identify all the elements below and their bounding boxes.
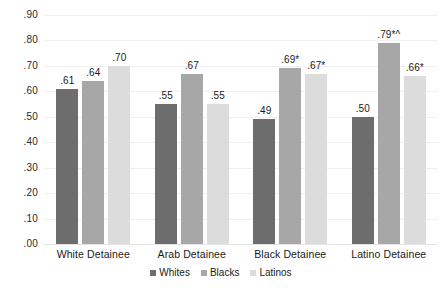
legend-swatch-icon [250, 270, 256, 276]
bar-value-label: .67* [307, 61, 325, 71]
y-axis-tick-label: .80 [4, 35, 38, 45]
y-axis-tick-label: .90 [4, 10, 38, 20]
bar[interactable] [378, 43, 400, 244]
bar-slot: .49 [253, 0, 275, 244]
bar-slot: .55 [155, 0, 177, 244]
bar[interactable] [108, 66, 130, 244]
y-axis-tick-label: .20 [4, 188, 38, 198]
bar-slot: .64 [82, 0, 104, 244]
bar-group-bars: .50.79*^.66* [340, 0, 439, 244]
y-axis-tick-label: .30 [4, 163, 38, 173]
bar-value-label: .79*^ [377, 30, 400, 40]
bar-slot: .69* [279, 0, 301, 244]
legend-swatch-icon [201, 270, 207, 276]
bar[interactable] [305, 74, 327, 244]
bar[interactable] [404, 76, 426, 244]
bar-slot: .67 [181, 0, 203, 244]
bar-value-label: .50 [356, 104, 370, 114]
bar-group-bars: .61.64.70 [44, 0, 143, 244]
legend-label: Whites [159, 268, 190, 278]
legend-label: Latinos [259, 268, 291, 278]
bar[interactable] [279, 68, 301, 244]
bar-slot: .79*^ [378, 0, 400, 244]
bar-value-label: .70 [112, 53, 126, 63]
bar-slot: .50 [352, 0, 374, 244]
legend-item[interactable]: Whites [150, 268, 190, 278]
bar-group-bars: .49.69*.67* [241, 0, 340, 244]
category-axis: White DetaineeArab DetaineeBlack Detaine… [44, 248, 438, 261]
bar-value-label: .55 [211, 91, 225, 101]
y-axis-tick-label: .60 [4, 86, 38, 96]
bar-value-label: .66* [406, 63, 424, 73]
bar-value-label: .64 [86, 68, 100, 78]
bar-value-label: .55 [159, 91, 173, 101]
axis-baseline [44, 244, 438, 245]
bar-group: .50.79*^.66* [340, 0, 439, 244]
y-axis-tick-label: .40 [4, 137, 38, 147]
bar-slot: .67* [305, 0, 327, 244]
y-axis-tick-label: .10 [4, 214, 38, 224]
bar-group-bars: .55.67.55 [143, 0, 242, 244]
y-axis-tick-label: .70 [4, 61, 38, 71]
bar-group: .55.67.55 [143, 0, 242, 244]
bar[interactable] [82, 81, 104, 244]
bar-value-label: .67 [185, 61, 199, 71]
chart-legend: WhitesBlacksLatinos [0, 268, 442, 278]
legend-swatch-icon [150, 270, 156, 276]
bar-value-label: .49 [257, 106, 271, 116]
legend-item[interactable]: Blacks [201, 268, 239, 278]
bar-group: .61.64.70 [44, 0, 143, 244]
category-label: Arab Detainee [143, 248, 242, 261]
category-label: White Detainee [44, 248, 143, 261]
y-axis-tick-label: .00 [4, 239, 38, 249]
bar-slot: .61 [56, 0, 78, 244]
y-axis-tick-label: .50 [4, 112, 38, 122]
bar[interactable] [253, 119, 275, 244]
bar-groups: .61.64.70.55.67.55.49.69*.67*.50.79*^.66… [44, 0, 438, 244]
bar-slot: .70 [108, 0, 130, 244]
bar-slot: .55 [207, 0, 229, 244]
bar[interactable] [56, 89, 78, 244]
bar-value-label: .69* [281, 55, 299, 65]
bar-chart: .61.64.70.55.67.55.49.69*.67*.50.79*^.66… [0, 0, 442, 288]
bar[interactable] [181, 74, 203, 244]
bar-slot: .66* [404, 0, 426, 244]
legend-label: Blacks [210, 268, 239, 278]
bar[interactable] [155, 104, 177, 244]
bar-group: .49.69*.67* [241, 0, 340, 244]
bar-value-label: .61 [60, 76, 74, 86]
bar[interactable] [207, 104, 229, 244]
category-label: Black Detainee [241, 248, 340, 261]
category-label: Latino Detainee [340, 248, 439, 261]
bar[interactable] [352, 117, 374, 244]
legend-item[interactable]: Latinos [250, 268, 291, 278]
